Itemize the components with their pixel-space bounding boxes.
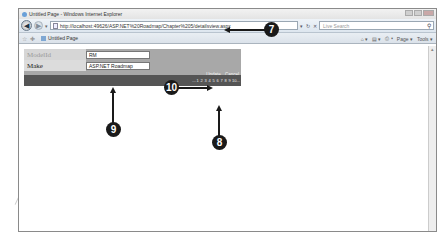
pager-link[interactable]: 6 bbox=[216, 78, 219, 83]
favorites-star-icon[interactable]: ☆ bbox=[22, 35, 27, 42]
pager-link[interactable]: … bbox=[192, 78, 195, 83]
tab-favicon bbox=[41, 36, 46, 41]
pager-link[interactable]: 2 bbox=[200, 78, 203, 83]
tab-row: ☆ ✚ Untitled Page ⌂ ▾ ▤ ▾ ⎙ ▾ Page ▾ Too… bbox=[19, 33, 436, 44]
tab-title: Untitled Page bbox=[48, 35, 78, 41]
callout-7: 7 bbox=[264, 22, 279, 37]
address-tools: ▾ ↻ ✕ bbox=[300, 23, 317, 29]
callout-10: 10 bbox=[164, 80, 179, 95]
callout-10-arrow bbox=[178, 87, 208, 89]
close-button[interactable] bbox=[423, 10, 434, 16]
home-button[interactable]: ⌂ ▾ bbox=[361, 36, 368, 42]
scroll-up-icon[interactable]: ▴ bbox=[429, 46, 436, 53]
callout-10-arrowhead bbox=[207, 85, 213, 91]
back-button[interactable]: ◀ bbox=[21, 20, 32, 31]
address-dropdown-icon[interactable]: ▾ bbox=[300, 23, 303, 29]
search-placeholder: Live Search bbox=[323, 23, 349, 29]
pager-link[interactable]: 9 bbox=[228, 78, 231, 83]
pager-link[interactable]: 5 bbox=[212, 78, 215, 83]
forward-arrow-icon: ▶ bbox=[36, 22, 41, 30]
stop-icon[interactable]: ✕ bbox=[313, 23, 317, 29]
back-arrow-icon: ◀ bbox=[24, 22, 29, 30]
page-viewport: ▴ ModelId RM Make ASP.NET Roadmap Update… bbox=[19, 46, 436, 231]
callout-8: 8 bbox=[212, 135, 227, 150]
search-box[interactable]: Live Search ⚲ bbox=[319, 21, 434, 30]
pager-link[interactable]: 7 bbox=[220, 78, 223, 83]
window-controls bbox=[405, 10, 434, 16]
print-button[interactable]: ⎙ ▾ bbox=[385, 35, 392, 42]
tab-untitled-page[interactable]: Untitled Page bbox=[38, 35, 81, 41]
page-menu-button[interactable]: Page ▾ bbox=[397, 36, 413, 42]
pager-link[interactable]: … bbox=[236, 78, 239, 83]
forward-button[interactable]: ▶ bbox=[34, 21, 43, 30]
details-row-modelid: ModelId RM bbox=[24, 49, 150, 60]
callout-9-arrow bbox=[112, 93, 114, 123]
ie-icon bbox=[22, 12, 27, 17]
history-dropdown[interactable]: ▾ bbox=[45, 23, 48, 29]
field-label: ModelId bbox=[24, 49, 86, 60]
vertical-scrollbar[interactable]: ▴ bbox=[428, 46, 436, 231]
pager-link[interactable]: 3 bbox=[204, 78, 207, 83]
screenshot-stage: Untitled Page - Windows Internet Explore… bbox=[0, 0, 443, 243]
pager-link[interactable]: 10 bbox=[232, 78, 235, 83]
maximize-button[interactable] bbox=[414, 10, 422, 16]
tools-menu-button[interactable]: Tools ▾ bbox=[417, 36, 433, 42]
pager-link[interactable]: 1 bbox=[196, 78, 199, 83]
details-row-make: Make ASP.NET Roadmap bbox=[24, 60, 150, 71]
ie-window: Untitled Page - Windows Internet Explore… bbox=[18, 8, 437, 232]
callout-8-arrow bbox=[218, 111, 220, 136]
command-bar: ⌂ ▾ ▤ ▾ ⎙ ▾ Page ▾ Tools ▾ bbox=[361, 35, 433, 42]
modelid-input[interactable]: RM bbox=[86, 51, 150, 59]
add-favorites-icon[interactable]: ✚ bbox=[30, 35, 35, 42]
page-icon bbox=[53, 23, 58, 29]
refresh-icon[interactable]: ↻ bbox=[306, 23, 310, 29]
feeds-button[interactable]: ▤ ▾ bbox=[372, 36, 381, 42]
address-url: http://localhost:49626/ASP.NET%20Roadmap… bbox=[60, 23, 231, 29]
pager-link[interactable]: 4 bbox=[208, 78, 211, 83]
callout-9: 9 bbox=[106, 122, 121, 137]
make-input[interactable]: ASP.NET Roadmap bbox=[86, 62, 150, 70]
search-icon[interactable]: ⚲ bbox=[427, 22, 431, 29]
minimize-button[interactable] bbox=[405, 10, 413, 16]
window-title: Untitled Page - Windows Internet Explore… bbox=[29, 11, 122, 17]
callout-7-arrow bbox=[229, 29, 265, 31]
field-label: Make bbox=[24, 60, 86, 71]
title-bar: Untitled Page - Windows Internet Explore… bbox=[19, 9, 436, 19]
details-view: ModelId RM Make ASP.NET Roadmap Update C… bbox=[24, 49, 241, 86]
pager-link[interactable]: 8 bbox=[224, 78, 227, 83]
